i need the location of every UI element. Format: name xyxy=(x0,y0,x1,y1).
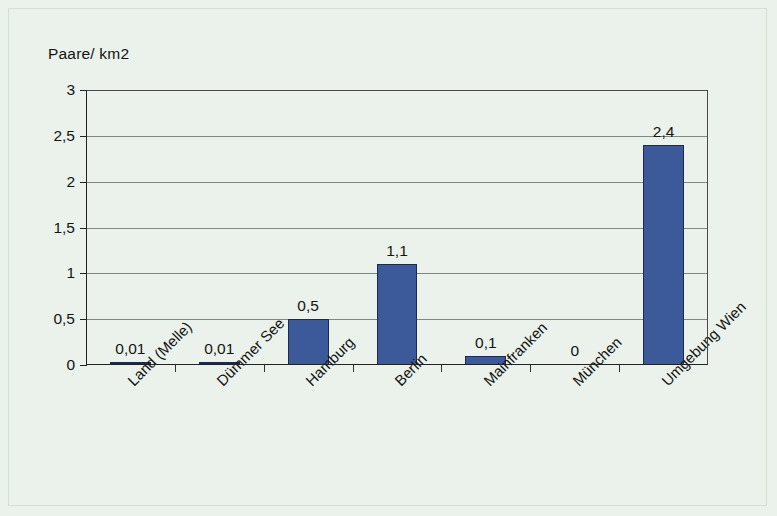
y-tick-label: 3 xyxy=(66,81,75,99)
y-tick-label: 2 xyxy=(66,173,75,191)
y-tick-label: 1 xyxy=(66,264,75,282)
plot-frame-border xyxy=(86,90,708,365)
x-tick-mark xyxy=(353,365,354,372)
y-tick-mark xyxy=(80,365,87,366)
y-axis-title: Paare/ km2 xyxy=(48,45,129,63)
x-tick-mark xyxy=(175,365,176,372)
y-tick-label: 0 xyxy=(66,356,75,374)
x-tick-mark xyxy=(441,365,442,372)
chart-figure: Paare/ km2 00,511,522,53 0,010,010,51,10… xyxy=(0,0,777,516)
plot-area: 00,511,522,53 0,010,010,51,10,102,4 Land… xyxy=(86,90,708,365)
y-tick-label: 2,5 xyxy=(53,127,75,145)
x-tick-mark xyxy=(264,365,265,372)
x-tick-mark xyxy=(530,365,531,372)
x-tick-mark xyxy=(619,365,620,372)
y-tick-label: 1,5 xyxy=(53,219,75,237)
y-tick-label: 0,5 xyxy=(53,310,75,328)
